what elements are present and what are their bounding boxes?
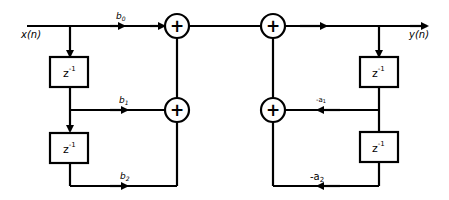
coef-b1: b1 (119, 95, 129, 106)
coef-a1: -a1 (316, 96, 326, 104)
plus-icon: + (170, 16, 184, 36)
iir-filter-diagram: + + + + z-1 z-1 z-1 z-1 x(n) y(n) b0 b1 … (0, 0, 449, 200)
coef-b2: b2 (120, 171, 130, 182)
input-label: x(n) (20, 29, 41, 40)
coef-b0: b0 (116, 11, 126, 22)
plus-icon: + (170, 100, 184, 120)
output-label: y(n) (408, 29, 429, 40)
plus-icon: + (266, 16, 280, 36)
coef-a2: -a2 (310, 171, 324, 184)
plus-icon: + (266, 100, 280, 120)
